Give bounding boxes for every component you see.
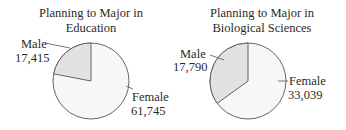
title-line-1: Planning to Major in	[192, 6, 332, 21]
label-female-biology: Female	[289, 74, 326, 89]
slice-male-education	[54, 43, 91, 81]
leader-line-male-education	[45, 43, 70, 48]
title-line-2: Biological Sciences	[192, 21, 332, 36]
title-line-2: Education	[20, 21, 162, 36]
pie-education	[45, 43, 133, 119]
value-male-education: 17,415	[15, 51, 49, 66]
value-female-biology: 33,039	[288, 88, 322, 103]
value-female-education: 61,745	[131, 104, 165, 119]
chart-title-biology: Planning to Major in Biological Sciences	[192, 6, 332, 36]
value-male-biology: 17,790	[173, 60, 207, 75]
title-line-1: Planning to Major in	[20, 6, 162, 21]
label-male-education: Male	[21, 37, 47, 52]
chart-title-education: Planning to Major in Education	[20, 6, 162, 36]
label-female-education: Female	[132, 90, 169, 105]
pie-biological-sciences	[210, 43, 288, 119]
